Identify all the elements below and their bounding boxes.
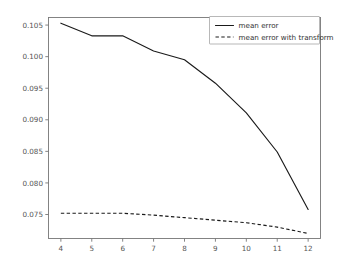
x-tick-label: 6: [120, 244, 125, 253]
axes: 0.0750.0800.0850.0900.0950.1000.10545678…: [22, 18, 320, 253]
x-tick-label: 11: [273, 244, 282, 253]
y-tick-label: 0.090: [22, 115, 43, 124]
x-tick-label: 10: [242, 244, 252, 253]
x-tick-label: 7: [151, 244, 156, 253]
y-tick-label: 0.080: [22, 179, 43, 188]
figure-canvas: 0.0750.0800.0850.0900.0950.1000.10545678…: [0, 0, 357, 270]
x-tick-label: 12: [304, 244, 313, 253]
series-line-dashed: [61, 213, 308, 233]
chart-legend: mean errormean error with transform: [210, 17, 334, 45]
legend-label: mean error: [239, 21, 279, 30]
y-tick-label: 0.105: [22, 21, 43, 30]
y-tick-label: 0.075: [22, 210, 43, 219]
y-tick-label: 0.100: [22, 52, 43, 61]
legend-label: mean error with transform: [239, 33, 334, 42]
line-chart: 0.0750.0800.0850.0900.0950.1000.10545678…: [0, 0, 357, 270]
x-tick-label: 9: [213, 244, 218, 253]
y-tick-label: 0.095: [22, 84, 43, 93]
data-series: [61, 23, 308, 233]
x-tick-label: 4: [59, 244, 64, 253]
plot-frame: [49, 18, 321, 239]
x-tick-label: 8: [182, 244, 187, 253]
x-tick-label: 5: [89, 244, 94, 253]
y-tick-label: 0.085: [22, 147, 43, 156]
series-line-solid: [61, 23, 308, 209]
